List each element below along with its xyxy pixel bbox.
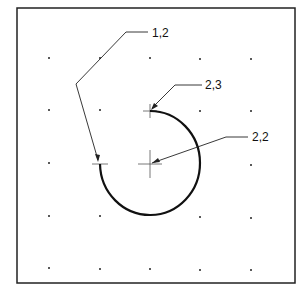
label-end-point: 2,3: [205, 78, 222, 92]
diagram-canvas: 1,2 2,3 2,2: [0, 0, 305, 304]
frame-border: [17, 8, 295, 283]
label-center-point: 2,2: [252, 130, 269, 144]
label-start-point: 1,2: [152, 26, 169, 40]
